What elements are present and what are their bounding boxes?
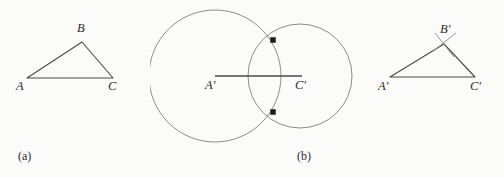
vertex-label-c: C [108,79,116,94]
upper-intersection-dot [270,37,276,43]
vertex-label-c-prime: C' [470,79,481,94]
vertex-label-a: A [16,79,24,94]
geometry-figure: A B C (a) A' C' (b) A' B' C' (c) [0,0,504,177]
panel-caption-b: (b) [297,149,311,164]
panel-c: A' B' C' (c) [370,0,504,177]
vertex-label-a-prime: A' [205,78,215,93]
vertex-label-c-prime: C' [295,78,306,93]
vertex-label-b-prime: B' [440,22,450,37]
triangle-abc-outline [27,42,113,78]
panel-b: A' C' (b) [150,0,370,177]
panel-c-drawing [370,0,504,177]
vertex-label-b: B [77,21,85,36]
panel-caption-a: (a) [18,149,31,164]
triangle-a-prime-b-prime-c-prime-outline [390,44,475,77]
panel-a: A B C (a) [0,0,150,177]
lower-intersection-dot [270,109,276,115]
panel-b-drawing [150,0,370,177]
vertex-label-a-prime: A' [378,79,388,94]
triangle-abc [27,42,113,78]
